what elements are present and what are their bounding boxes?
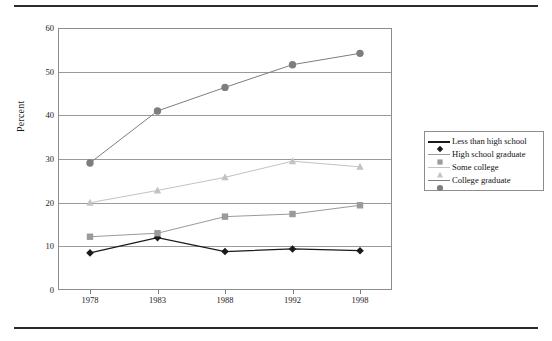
y-tick-label: 40 (28, 111, 54, 120)
plot-area (58, 28, 392, 290)
legend-item-2[interactable]: High school graduate (428, 148, 539, 161)
gridline (59, 203, 391, 204)
y-tick-label: 30 (28, 155, 54, 164)
legend-item-1[interactable]: Less than high school (428, 135, 539, 148)
legend-label: College graduate (450, 176, 510, 185)
gridline (59, 246, 391, 247)
figure-container: Percent 0102030405060 197819831988199219… (0, 0, 552, 341)
legend-marker-square-icon (428, 149, 450, 161)
x-tick-mark (293, 290, 294, 294)
x-tick-label: 1983 (138, 296, 178, 305)
legend: Less than high schoolHigh school graduat… (424, 131, 544, 191)
y-tick-label: 20 (28, 199, 54, 208)
gridline (59, 159, 391, 160)
x-tick-mark (158, 290, 159, 294)
x-tick-label: 1978 (70, 296, 110, 305)
legend-marker-triangle-icon (428, 162, 450, 174)
plot-wrapper: Percent 0102030405060 197819831988199219… (0, 0, 552, 341)
legend-label: Some college (450, 163, 499, 172)
y-tick-label: 10 (28, 242, 54, 251)
x-tick-mark (360, 290, 361, 294)
x-tick-mark (90, 290, 91, 294)
y-tick-label: 50 (28, 68, 54, 77)
legend-label: High school graduate (450, 150, 526, 159)
y-tick-label: 60 (28, 24, 54, 33)
legend-item-4[interactable]: College graduate (428, 174, 539, 187)
gridline (59, 115, 391, 116)
x-tick-label: 1988 (205, 296, 245, 305)
legend-marker-diamond-icon (428, 136, 450, 148)
x-tick-label: 1998 (340, 296, 380, 305)
x-tick-label: 1992 (273, 296, 313, 305)
x-tick-mark (225, 290, 226, 294)
y-tick-label: 0 (28, 286, 54, 295)
legend-item-3[interactable]: Some college (428, 161, 539, 174)
gridline (59, 72, 391, 73)
legend-marker-circle-icon (428, 175, 450, 187)
bottom-horizontal-rule (14, 327, 538, 329)
y-axis-label: Percent (15, 101, 26, 132)
legend-label: Less than high school (450, 137, 527, 146)
